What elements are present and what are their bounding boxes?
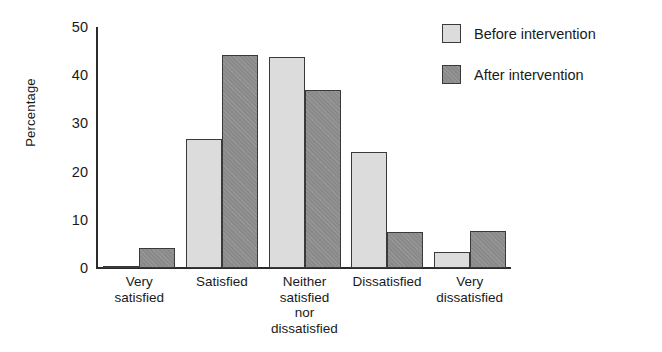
- y-tick-label: 40: [58, 68, 88, 83]
- x-tick-label-line: satisfied: [84, 290, 194, 306]
- bar-group: [103, 27, 175, 268]
- x-tick-label-line: nor: [250, 305, 360, 321]
- bar-group: [186, 27, 258, 268]
- bar-after: [305, 90, 341, 268]
- legend-swatch-after-icon: [442, 65, 461, 84]
- legend-swatch-before-icon: [442, 24, 461, 43]
- x-tick-label-line: Very: [415, 274, 525, 290]
- legend-label-before: Before intervention: [474, 26, 596, 42]
- legend-label-after: After intervention: [474, 67, 584, 83]
- chart-legend: Before intervention After intervention: [442, 24, 596, 106]
- x-tick-label-line: dissatisfied: [415, 290, 525, 306]
- x-tick-label: Verydissatisfied: [415, 274, 525, 305]
- y-tick-label: 10: [58, 213, 88, 228]
- y-tick-label: 50: [58, 20, 88, 35]
- x-tick-label-line: satisfied: [250, 290, 360, 306]
- bar-before: [351, 152, 387, 268]
- bar-after: [222, 55, 258, 268]
- legend-item-before: Before intervention: [442, 24, 596, 43]
- legend-item-after: After intervention: [442, 65, 596, 84]
- y-tick-label: 30: [58, 116, 88, 131]
- bar-group: [351, 27, 423, 268]
- bar-before: [269, 57, 305, 268]
- bar-after: [139, 248, 175, 268]
- bar-chart: Percentage 01020304050 VerysatisfiedSati…: [0, 0, 662, 352]
- bar-after: [470, 231, 506, 268]
- x-tick-label-line: dissatisfied: [250, 321, 360, 337]
- y-axis-title: Percentage: [23, 53, 38, 173]
- bar-before: [103, 266, 139, 269]
- bar-before: [434, 252, 470, 268]
- bar-after: [387, 232, 423, 268]
- bar-group: [269, 27, 341, 268]
- bar-before: [186, 139, 222, 268]
- y-tick-label: 20: [58, 165, 88, 180]
